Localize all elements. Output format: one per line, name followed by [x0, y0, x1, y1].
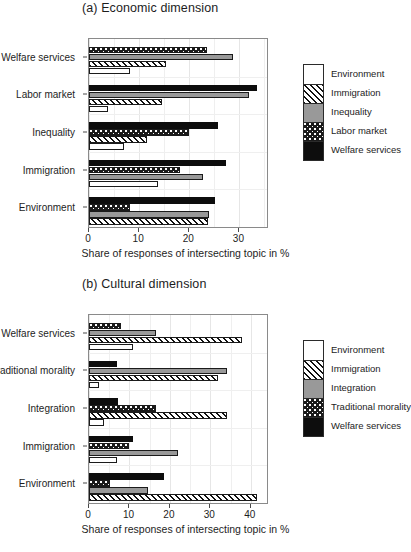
legend-label-immigration: Immigration	[331, 359, 411, 378]
legend-swatch-labor-market	[304, 122, 323, 141]
plot-area-b: EnvironmentImmigrationIntegrationTraditi…	[0, 294, 407, 526]
x-axis-tick	[88, 504, 89, 508]
gridline-horizontal	[89, 189, 267, 190]
x-axis-tick	[169, 504, 170, 508]
bar-labor-market	[89, 204, 130, 210]
legend-label-traditional-morality: Traditional morality	[331, 397, 411, 416]
x-axis-tick-label: 30	[204, 509, 215, 520]
legend-swatch-welfare-services	[304, 417, 323, 436]
y-axis-tick	[83, 132, 87, 133]
bar-integration	[89, 487, 148, 493]
x-axis-tick	[128, 504, 129, 508]
x-axis-tick-label: 40	[244, 509, 255, 520]
bar-labor-market	[89, 129, 189, 135]
bar-welfare-services	[89, 197, 215, 203]
y-axis-label-immigration: Immigration	[23, 164, 75, 175]
x-axis-tick-label: 10	[123, 509, 134, 520]
bar-welfare-services	[89, 398, 118, 404]
bar-environment	[89, 106, 108, 112]
x-axis-tick-label: 10	[133, 233, 144, 244]
gridline-horizontal	[89, 77, 267, 78]
panel-a-title: (a) Economic dimension	[82, 1, 218, 15]
legend-swatch-traditional-morality	[304, 398, 323, 417]
bar-environment	[89, 143, 124, 149]
x-axis-label-a: Share of responses of intersecting topic…	[78, 247, 293, 259]
y-axis-tick	[83, 56, 87, 57]
legend-swatch-immigration	[304, 360, 323, 379]
y-axis-tick	[83, 332, 87, 333]
bar-environment	[89, 68, 130, 74]
bar-welfare-services	[89, 122, 218, 128]
legend-label-immigration: Immigration	[331, 83, 401, 102]
bar-immigration	[89, 218, 208, 224]
legend-label-welfare-services: Welfare services	[331, 140, 401, 159]
legend-swatch-integration	[304, 379, 323, 398]
bar-inequality	[89, 174, 203, 180]
y-axis-label-welfare-services: Welfare services	[1, 327, 75, 338]
y-axis-tick	[83, 94, 87, 95]
bar-immigration	[89, 61, 166, 67]
panel-economic-dimension: (a) Economic dimension EnvironmentImmigr…	[0, 0, 407, 276]
bar-immigration	[89, 494, 257, 500]
legend-label-labor-market: Labor market	[331, 121, 401, 140]
bar-integration	[89, 450, 178, 456]
x-axis-tick	[238, 228, 239, 232]
gridline-horizontal	[89, 465, 267, 466]
bar-immigration	[89, 99, 162, 105]
bar-inequality	[89, 54, 233, 60]
y-axis-label-integration: Integration	[28, 403, 75, 414]
y-axis-label-environment: Environment	[19, 478, 75, 489]
legend-swatch-environment	[304, 341, 323, 360]
legend-swatch-environment	[304, 65, 323, 84]
bar-traditional-morality	[89, 405, 156, 411]
gridline-horizontal	[89, 390, 267, 391]
bar-welfare-services	[89, 473, 164, 479]
legend-labels-b: EnvironmentImmigrationIntegrationTraditi…	[331, 340, 411, 435]
x-axis-tick-label: 0	[85, 233, 91, 244]
x-axis-label-b: Share of responses of intersecting topic…	[78, 523, 293, 535]
y-axis-label-labor-market: Labor market	[16, 89, 75, 100]
bar-immigration	[89, 337, 242, 343]
y-axis-tick	[83, 408, 87, 409]
y-axis-tick	[83, 169, 87, 170]
bar-inequality	[89, 92, 249, 98]
gridline-horizontal	[89, 152, 267, 153]
legend-swatch-inequality	[304, 103, 323, 122]
panel-b-title: (b) Cultural dimension	[82, 277, 206, 291]
gridline-horizontal	[89, 114, 267, 115]
y-axis-labels-b: EnvironmentImmigrationIntegrationTraditi…	[0, 314, 83, 504]
y-axis-label-environment: Environment	[19, 202, 75, 213]
plot-area-a: EnvironmentImmigrationInequalityLabor ma…	[0, 18, 407, 250]
legend-keys-b	[303, 340, 324, 437]
bar-environment	[89, 181, 158, 187]
bar-welfare-services	[89, 160, 226, 166]
bar-inequality	[89, 211, 209, 217]
legend-label-integration: Integration	[331, 378, 411, 397]
bar-welfare-services	[89, 436, 133, 442]
legend-labels-a: EnvironmentImmigrationInequalityLabor ma…	[331, 64, 401, 159]
legend-swatch-immigration	[304, 84, 323, 103]
panel-cultural-dimension: (b) Cultural dimension EnvironmentImmigr…	[0, 276, 407, 552]
x-axis-tick	[188, 228, 189, 232]
bar-integration	[89, 330, 156, 336]
bar-environment	[89, 419, 104, 425]
y-axis-labels-a: EnvironmentImmigrationInequalityLabor ma…	[0, 38, 83, 228]
bar-traditional-morality	[89, 323, 121, 329]
y-axis-label-traditional-morality: Traditional morality	[0, 365, 75, 376]
x-axis-tick	[88, 228, 89, 232]
y-axis-tick	[83, 445, 87, 446]
legend-keys-a	[303, 64, 324, 161]
x-axis-tick-label: 0	[85, 509, 91, 520]
x-axis-tick	[209, 504, 210, 508]
bar-welfare-services	[89, 361, 117, 367]
x-axis-tick	[250, 504, 251, 508]
y-axis-label-inequality: Inequality	[32, 127, 75, 138]
bar-environment	[89, 382, 99, 388]
y-axis-label-immigration: Immigration	[23, 440, 75, 451]
x-axis-tick-label: 20	[183, 233, 194, 244]
bar-immigration	[89, 375, 218, 381]
y-axis-label-welfare-services: Welfare services	[1, 51, 75, 62]
x-axis-tick-label: 30	[233, 233, 244, 244]
gridline-horizontal	[89, 353, 267, 354]
bar-immigration	[89, 136, 147, 142]
